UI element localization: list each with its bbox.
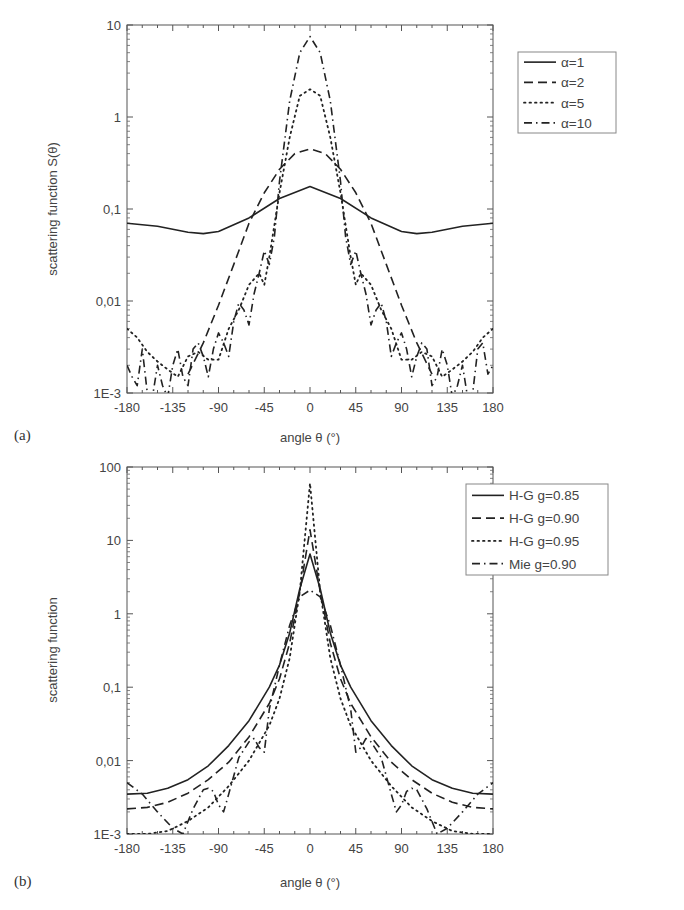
y-axis-title-b: scattering function [45, 597, 60, 703]
legend-label: H-G g=0.95 [509, 534, 579, 549]
y-tick-label: 0,1 [103, 680, 121, 695]
panel-label-b: (b) [14, 873, 32, 890]
x-tick-label: -45 [255, 841, 274, 856]
legend-label: α=5 [561, 96, 584, 111]
series-group-b [127, 483, 493, 834]
x-tick-label: 135 [436, 841, 458, 856]
series-line [127, 89, 493, 377]
x-tick-label: -45 [255, 400, 274, 415]
plot-area-a [127, 25, 493, 393]
y-tick-label: 0,01 [96, 294, 121, 309]
axis-ticks-a: -180-135-90-45045901351801E-30,010,1110 [94, 18, 504, 415]
series-line [127, 554, 493, 794]
y-tick-label: 1 [114, 110, 121, 125]
series-line [127, 590, 493, 834]
series-line [127, 187, 493, 234]
plot-area-b [127, 467, 493, 834]
chart-panel-a: -180-135-90-45045901351801E-30,010,1110 … [14, 18, 616, 445]
legend-label: α=2 [561, 75, 584, 90]
x-tick-label: 90 [394, 841, 408, 856]
legend-a: α=1α=2α=5α=10 [518, 52, 616, 133]
chart-panel-b: -180-135-90-45045901351801E-30,010,11101… [14, 460, 608, 890]
y-tick-label: 10 [107, 533, 121, 548]
x-axis-title-b: angle θ (°) [280, 875, 340, 890]
y-tick-label: 100 [99, 460, 121, 475]
panel-label-a: (a) [14, 427, 31, 444]
y-tick-label: 0,01 [96, 754, 121, 769]
x-tick-label: 180 [482, 841, 504, 856]
legend-label: H-G g=0.85 [509, 488, 579, 503]
legend-label: α=1 [561, 55, 584, 70]
x-tick-label: -180 [114, 841, 140, 856]
series-line [188, 149, 432, 374]
legend-b: H-G g=0.85H-G g=0.90H-G g=0.95Mie g=0.90 [466, 484, 608, 575]
x-tick-label: -90 [209, 400, 228, 415]
x-tick-label: 180 [482, 400, 504, 415]
x-tick-label: -180 [114, 400, 140, 415]
x-tick-label: 0 [306, 841, 313, 856]
y-tick-label: 1 [114, 607, 121, 622]
y-axis-title-a: scattering function S(θ) [45, 142, 60, 276]
x-axis-title-a: angle θ (°) [280, 430, 340, 445]
x-tick-label: 0 [306, 400, 313, 415]
x-tick-label: -135 [160, 841, 186, 856]
y-tick-label: 1E-3 [94, 827, 121, 842]
x-tick-label: 45 [349, 400, 363, 415]
series-line [127, 37, 493, 398]
axis-ticks-b: -180-135-90-45045901351801E-30,010,11101… [94, 460, 504, 856]
x-tick-label: -135 [160, 400, 186, 415]
legend-label: α=10 [561, 116, 592, 131]
figure: -180-135-90-45045901351801E-30,010,1110 … [0, 0, 684, 910]
series-group-a [127, 37, 493, 398]
x-tick-label: 45 [349, 841, 363, 856]
series-line [127, 530, 493, 809]
x-tick-label: 135 [436, 400, 458, 415]
legend-label: Mie g=0.90 [509, 557, 576, 572]
legend-label: H-G g=0.90 [509, 511, 579, 526]
y-tick-label: 0,1 [103, 202, 121, 217]
y-tick-label: 10 [107, 18, 121, 33]
x-tick-label: -90 [209, 841, 228, 856]
series-line [127, 483, 493, 834]
x-tick-label: 90 [394, 400, 408, 415]
y-tick-label: 1E-3 [94, 386, 121, 401]
